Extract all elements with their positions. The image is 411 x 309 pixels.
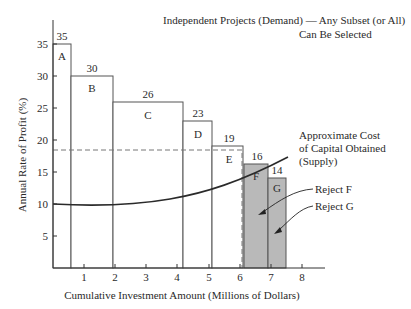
bar-value-g: 14 [272, 164, 284, 176]
bar-value-b: 30 [87, 62, 99, 74]
x-tick-label: 5 [206, 271, 212, 283]
chart-title-line-2: Can Be Selected [299, 28, 372, 40]
investment-chart: Independent Projects (Demand) — Any Subs… [0, 0, 411, 309]
supply-label-line-2: of Capital Obtained [299, 142, 386, 154]
x-tick-label: 6 [237, 271, 243, 283]
bar-c [113, 102, 183, 268]
y-tick-label: 10 [37, 198, 49, 210]
x-tick-label: 2 [112, 271, 118, 283]
bar-letter-g: G [273, 182, 281, 194]
supply-label-line-3: (Supply) [299, 155, 338, 168]
x-axis-title: Cumulative Investment Amount (Millions o… [64, 289, 300, 302]
y-tick-label: 20 [37, 134, 49, 146]
bar-value-a: 35 [57, 30, 69, 42]
x-tick-label: 3 [143, 271, 149, 283]
chart-title-line-1: Independent Projects (Demand) — Any Subs… [163, 14, 406, 27]
y-tick-label: 35 [37, 38, 49, 50]
y-tick-label: 30 [37, 70, 49, 82]
bar-value-e: 19 [224, 132, 236, 144]
bar-b [71, 76, 113, 268]
bar-d [183, 121, 212, 268]
bar-a [53, 44, 71, 268]
bar-value-f: 16 [252, 150, 264, 162]
x-tick-label: 7 [268, 271, 274, 283]
y-tick-labels: 5 10 15 20 25 30 35 [37, 38, 49, 242]
y-tick-label: 15 [37, 166, 49, 178]
bar-letter-d: D [194, 128, 202, 140]
bar-letter-e: E [226, 153, 233, 165]
y-tick-label: 5 [43, 230, 49, 242]
bar-letter-c: C [144, 109, 151, 121]
x-tick-labels: 1 2 3 4 5 6 7 8 [81, 271, 305, 283]
reject-g-label: Reject G [315, 200, 354, 212]
supply-label-line-1: Approximate Cost [299, 129, 380, 141]
bar-letter-b: B [88, 82, 95, 94]
bar-value-d: 23 [193, 107, 205, 119]
x-tick-label: 8 [299, 271, 305, 283]
y-tick-label: 25 [37, 102, 49, 114]
supply-annotation: Approximate Cost of Capital Obtained (Su… [299, 129, 386, 168]
bar-value-c: 26 [143, 88, 155, 100]
bar-letter-f: F [253, 170, 259, 182]
reject-f-label: Reject F [315, 183, 352, 195]
bar-letter-a: A [58, 50, 66, 62]
x-tick-label: 4 [174, 271, 180, 283]
x-tick-label: 1 [81, 271, 87, 283]
y-axis-title: Annual Rate of Profit (%) [16, 98, 29, 213]
